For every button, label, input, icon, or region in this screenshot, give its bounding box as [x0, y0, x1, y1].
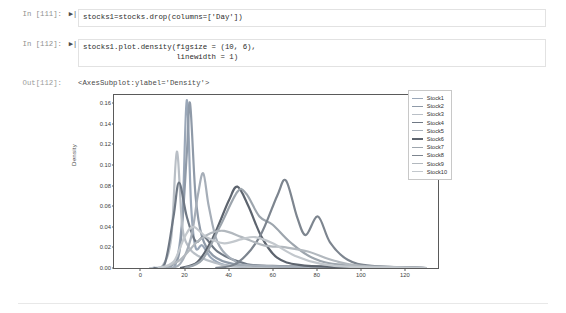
y-axis-tick-label: 0.16	[100, 100, 111, 106]
legend-label: Stock5	[427, 127, 444, 135]
notebook-cell-input[interactable]: In [111]: ▶| stocks1=stocks.drop(columns…	[0, 9, 566, 27]
legend-label: Stock8	[427, 151, 444, 159]
x-axis-tick-mark	[184, 268, 185, 271]
legend-line-swatch	[412, 106, 423, 107]
y-axis-tick-mark	[112, 206, 115, 207]
legend-label: Stock3	[427, 110, 444, 118]
y-axis-tick-label: 0.00	[100, 265, 111, 271]
legend-line-swatch	[412, 138, 423, 139]
legend-item: Stock4	[412, 119, 447, 127]
y-axis-tick-label: 0.14	[100, 121, 111, 127]
code-input-box[interactable]: stocks1.plot.density(figsize = (10, 6), …	[78, 39, 546, 67]
y-axis-tick-mark	[112, 268, 115, 269]
legend-line-swatch	[412, 163, 423, 164]
legend-label: Stock9	[427, 160, 444, 168]
legend-label: Stock2	[427, 102, 444, 110]
density-line	[180, 187, 427, 268]
y-axis-tick-mark	[112, 226, 115, 227]
x-axis-tick-label: 120	[400, 272, 410, 278]
output-repr-text: <AxesSubplot:ylabel='Density'>	[78, 78, 566, 88]
legend-item: Stock1	[412, 94, 447, 102]
legend-line-swatch	[412, 171, 423, 172]
legend-item: Stock3	[412, 110, 447, 118]
density-line	[185, 189, 427, 268]
y-axis-tick-mark	[112, 123, 115, 124]
x-axis-tick-label: 60	[269, 272, 275, 278]
x-axis-tick-label: 20	[181, 272, 187, 278]
legend-label: Stock10	[427, 168, 447, 176]
legend-item: Stock10	[412, 168, 447, 176]
x-axis-tick-label: 80	[314, 272, 320, 278]
chart-legend: Stock1Stock2Stock3Stock4Stock5Stock6Stoc…	[408, 90, 452, 180]
legend-item: Stock5	[412, 127, 447, 135]
legend-line-swatch	[412, 130, 423, 131]
run-cell-icon[interactable]: ▶|	[68, 9, 78, 19]
output-prompt-label: Out[112]:	[0, 78, 68, 88]
density-line	[151, 100, 427, 268]
legend-line-swatch	[412, 122, 423, 123]
y-axis-tick-mark	[112, 185, 115, 186]
legend-label: Stock4	[427, 119, 444, 127]
x-axis-tick-label: 40	[225, 272, 231, 278]
density-curves	[114, 95, 438, 268]
legend-line-swatch	[412, 98, 423, 99]
legend-line-swatch	[412, 114, 423, 115]
x-axis-tick-mark	[404, 268, 405, 271]
jupyter-notebook: In [111]: ▶| stocks1=stocks.drop(columns…	[0, 0, 566, 313]
x-axis-tick-label: 100	[356, 272, 366, 278]
x-axis-tick-mark	[316, 268, 317, 271]
y-axis-tick-label: 0.10	[100, 162, 111, 168]
y-axis-tick-mark	[112, 144, 115, 145]
x-axis-tick-mark	[272, 268, 273, 271]
matplotlib-figure: Density 0.000.020.040.060.080.100.120.14…	[72, 88, 452, 293]
x-axis-tick-mark	[228, 268, 229, 271]
legend-line-swatch	[412, 147, 423, 148]
page-divider	[18, 303, 548, 304]
legend-item: Stock2	[412, 102, 447, 110]
x-axis-tick-mark	[140, 268, 141, 271]
code-text: stocks1=stocks.drop(columns=['Day'])	[83, 12, 541, 23]
y-axis-tick-mark	[112, 247, 115, 248]
legend-item: Stock8	[412, 151, 447, 159]
y-axis-tick-label: 0.04	[100, 224, 111, 230]
code-text: stocks1.plot.density(figsize = (10, 6), …	[83, 42, 541, 63]
code-input-box[interactable]: stocks1=stocks.drop(columns=['Day'])	[78, 9, 546, 27]
y-axis-tick-label: 0.06	[100, 203, 111, 209]
y-axis-tick-mark	[112, 165, 115, 166]
x-axis-tick-label: 0	[139, 272, 142, 278]
legend-item: Stock7	[412, 143, 447, 151]
legend-item: Stock9	[412, 160, 447, 168]
legend-label: Stock1	[427, 94, 444, 102]
legend-label: Stock6	[427, 135, 444, 143]
legend-line-swatch	[412, 155, 423, 156]
y-axis-tick-mark	[112, 103, 115, 104]
x-axis-tick-mark	[360, 268, 361, 271]
density-line	[215, 180, 427, 268]
y-axis-label: Density	[70, 144, 77, 166]
cell-prompt-label: In [111]:	[0, 9, 68, 19]
y-axis-tick-label: 0.08	[100, 183, 111, 189]
legend-item: Stock6	[412, 135, 447, 143]
run-cell-icon[interactable]: ▶|	[68, 39, 78, 49]
notebook-cell-input[interactable]: In [112]: ▶| stocks1.plot.density(figsiz…	[0, 39, 566, 67]
legend-label: Stock7	[427, 143, 444, 151]
cell-prompt-label: In [112]:	[0, 39, 68, 49]
notebook-cell-output: Out[112]: <AxesSubplot:ylabel='Density'>	[0, 78, 566, 88]
y-axis-tick-label: 0.02	[100, 244, 111, 250]
y-axis-tick-label: 0.12	[100, 141, 111, 147]
plot-area: 0.000.020.040.060.080.100.120.140.160204…	[113, 94, 439, 269]
